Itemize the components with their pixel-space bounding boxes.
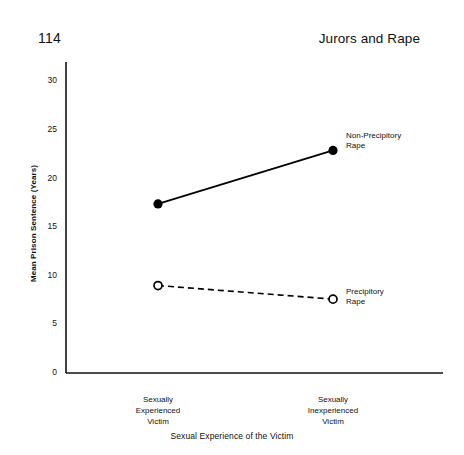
series-line-non-precipitory <box>158 150 333 203</box>
y-tick-label: 15 <box>35 221 57 231</box>
data-point-non-precipitory-inexperienced <box>328 146 337 155</box>
series-label-line2: Rape <box>346 141 401 151</box>
x-category-line1: Sexually <box>98 394 218 405</box>
series-label-line1: Non-Precipitory <box>346 131 401 140</box>
x-category-line2: Inexperienced <box>273 405 393 416</box>
y-tick-label: 0 <box>35 367 57 377</box>
x-category-line1: Sexually <box>273 394 393 405</box>
x-category-line2: Experienced <box>98 405 218 416</box>
series-label-precipitory: Precipitory Rape <box>346 287 384 307</box>
data-point-non-precipitory-experienced <box>153 199 162 208</box>
y-tick-label: 20 <box>35 173 57 183</box>
data-point-precipitory-experienced <box>154 282 162 290</box>
x-category-line3: Victim <box>273 416 393 427</box>
chart-plot-area <box>0 0 464 455</box>
series-label-line2: Rape <box>346 297 384 307</box>
data-point-precipitory-inexperienced <box>329 295 337 303</box>
series-label-non-precipitory: Non-Precipitory Rape <box>346 131 401 151</box>
x-category-label-inexperienced: Sexually Inexperienced Victim <box>273 394 393 427</box>
series-label-line1: Precipitory <box>346 287 384 296</box>
x-category-line3: Victim <box>98 416 218 427</box>
y-tick-label: 5 <box>35 318 57 328</box>
y-tick-label: 30 <box>35 75 57 85</box>
y-axis-title: Mean Prison Sentence (Years) <box>29 144 38 304</box>
figure-page: 114 Jurors and Rape 0 5 10 15 20 25 30 M… <box>0 0 464 455</box>
series-line-precipitory <box>158 286 333 300</box>
y-tick-label: 10 <box>35 270 57 280</box>
x-category-label-experienced: Sexually Experienced Victim <box>98 394 218 427</box>
y-tick-label: 25 <box>35 124 57 134</box>
x-axis-title: Sexual Experience of the Victim <box>0 431 464 441</box>
